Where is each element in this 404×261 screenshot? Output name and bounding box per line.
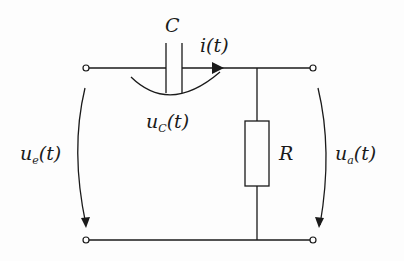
ue-voltage-arrow — [78, 88, 86, 225]
capacitor-symbol — [166, 43, 182, 93]
circuit-diagram: C i(t) uC(t) ue(t) R ua(t) — [0, 0, 404, 261]
ue-label: ue(t) — [20, 142, 61, 167]
capacitor-label: C — [165, 14, 180, 36]
ua-arrowhead-icon — [315, 217, 324, 228]
circuit-svg: C i(t) uC(t) ue(t) R ua(t) — [0, 0, 404, 261]
current-arrow-icon — [212, 62, 224, 74]
resistor-label: R — [278, 142, 293, 164]
ue-arrowhead-icon — [81, 217, 90, 228]
ua-label: ua(t) — [335, 142, 376, 167]
uc-label: uC(t) — [146, 110, 189, 135]
terminal-in-top — [83, 65, 89, 71]
terminal-in-bottom — [83, 237, 89, 243]
current-label: i(t) — [200, 34, 229, 56]
terminal-out-bottom — [310, 237, 316, 243]
resistor-symbol — [245, 121, 269, 186]
terminal-out-top — [310, 65, 316, 71]
ua-voltage-arrow — [318, 88, 326, 225]
uc-voltage-arrow — [131, 72, 220, 95]
